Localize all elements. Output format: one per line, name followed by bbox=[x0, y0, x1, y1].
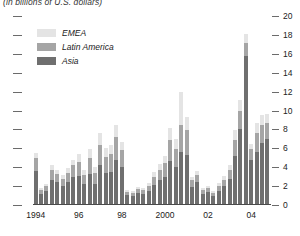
y-tick-mark bbox=[13, 35, 22, 36]
y-tick-label: 10 bbox=[283, 106, 292, 116]
bar-segment-asia bbox=[249, 160, 253, 205]
bar bbox=[66, 168, 70, 205]
y-tick-label: 4 bbox=[283, 162, 288, 172]
bar-segment-latin-america bbox=[82, 175, 86, 184]
bar bbox=[174, 139, 178, 205]
y-tick-label: 18 bbox=[283, 30, 292, 40]
y-tick-label: 8 bbox=[283, 124, 288, 134]
bar-segment-emea bbox=[211, 191, 215, 193]
y-tick-mark bbox=[13, 129, 22, 130]
bar-segment-emea bbox=[120, 142, 124, 151]
bar-segment-asia bbox=[179, 152, 183, 205]
bar-segment-emea bbox=[125, 190, 129, 192]
bar-segment-emea bbox=[190, 177, 194, 181]
bar bbox=[114, 125, 118, 205]
bar-segment-emea bbox=[66, 168, 70, 173]
bar-segment-emea bbox=[233, 130, 237, 139]
y-tick-mark bbox=[272, 167, 279, 168]
bar-segment-latin-america bbox=[168, 140, 172, 161]
bar bbox=[34, 153, 38, 205]
bar-segment-asia bbox=[228, 179, 232, 205]
bar-segment-latin-america bbox=[195, 175, 199, 183]
chart-subtitle: (in billions of U.S. dollars) bbox=[3, 0, 102, 7]
bar-segment-emea bbox=[158, 164, 162, 170]
bar-segment-asia bbox=[77, 176, 81, 205]
y-tick-mark bbox=[13, 92, 22, 93]
bar-segment-asia bbox=[66, 182, 70, 205]
bar bbox=[244, 34, 248, 205]
y-tick-mark bbox=[272, 16, 279, 17]
bar-segment-emea bbox=[44, 184, 48, 186]
bar-segment-emea bbox=[88, 149, 92, 158]
bar-segment-latin-america bbox=[179, 125, 183, 152]
bar bbox=[217, 183, 221, 205]
y-tick-mark bbox=[272, 186, 279, 187]
bar-segment-latin-america bbox=[34, 158, 38, 171]
bar bbox=[50, 165, 54, 205]
bar-segment-emea bbox=[222, 176, 226, 180]
bar-segment-emea bbox=[50, 165, 54, 170]
bar-segment-latin-america bbox=[228, 170, 232, 179]
bar bbox=[249, 144, 253, 205]
bar-segment-asia bbox=[190, 187, 194, 205]
bar-segment-asia bbox=[93, 184, 97, 205]
bar-segment-emea bbox=[104, 148, 108, 157]
bar-segment-emea bbox=[77, 154, 81, 162]
bar-segment-latin-america bbox=[120, 150, 124, 167]
y-tick-mark bbox=[13, 205, 22, 206]
bar-segment-latin-america bbox=[211, 193, 215, 196]
bar bbox=[201, 188, 205, 205]
bar-segment-emea bbox=[249, 144, 253, 150]
bar-segment-latin-america bbox=[265, 123, 269, 139]
bar-segment-asia bbox=[233, 156, 237, 205]
x-tick-label: 2000 bbox=[155, 210, 174, 220]
bar-segment-emea bbox=[244, 34, 248, 43]
bar bbox=[88, 149, 92, 205]
y-tick-mark bbox=[13, 16, 22, 17]
bar bbox=[228, 165, 232, 205]
bar bbox=[141, 188, 145, 205]
bar-segment-asia bbox=[195, 182, 199, 205]
bar-segment-asia bbox=[50, 180, 54, 206]
bar-segment-emea bbox=[98, 133, 102, 144]
bar-segment-latin-america bbox=[71, 165, 75, 176]
bar-segment-asia bbox=[222, 186, 226, 205]
y-tick-label: 20 bbox=[283, 11, 292, 21]
bar bbox=[61, 175, 65, 205]
bar-segment-asia bbox=[71, 177, 75, 205]
bar-segment-asia bbox=[255, 152, 259, 205]
bar bbox=[152, 172, 156, 205]
bar-segment-emea bbox=[185, 117, 189, 130]
bar-segment-emea bbox=[265, 114, 269, 123]
bar-segment-latin-america bbox=[141, 190, 145, 194]
bar bbox=[222, 176, 226, 205]
bar-segment-latin-america bbox=[255, 133, 259, 152]
bar-segment-asia bbox=[55, 182, 59, 205]
bar-segment-emea bbox=[217, 183, 221, 186]
bar bbox=[93, 167, 97, 205]
plot-area bbox=[33, 16, 270, 205]
bar-segment-asia bbox=[114, 160, 118, 205]
y-tick-mark bbox=[272, 73, 279, 74]
y-tick-mark bbox=[272, 111, 279, 112]
bar bbox=[125, 190, 129, 205]
y-tick-mark bbox=[272, 205, 279, 206]
bar-segment-latin-america bbox=[260, 125, 264, 143]
bar-segment-latin-america bbox=[104, 157, 108, 173]
bar-segment-emea bbox=[163, 156, 167, 164]
bar bbox=[120, 142, 124, 205]
bar-segment-latin-america bbox=[131, 193, 135, 196]
bar bbox=[109, 145, 113, 205]
bar-segment-latin-america bbox=[206, 188, 210, 192]
bar-segment-emea bbox=[61, 175, 65, 179]
y-tick-mark bbox=[13, 111, 22, 112]
bar-segment-latin-america bbox=[238, 111, 242, 130]
bar bbox=[55, 170, 59, 205]
y-tick-mark bbox=[272, 35, 279, 36]
bar-segment-asia bbox=[174, 167, 178, 205]
bar bbox=[44, 184, 48, 205]
x-tick-label: 1994 bbox=[26, 210, 45, 220]
bar bbox=[260, 115, 264, 205]
bar bbox=[158, 164, 162, 205]
bar-segment-latin-america bbox=[109, 154, 113, 172]
